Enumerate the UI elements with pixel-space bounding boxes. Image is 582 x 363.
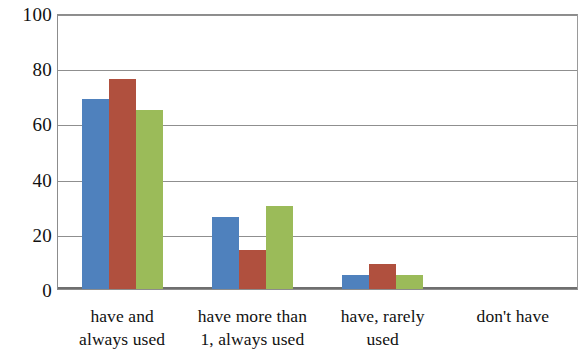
x-axis-label: don't have bbox=[448, 296, 578, 360]
x-axis-label-line: have, rarely bbox=[318, 305, 448, 328]
grouped-bar-chart: 020406080100 have andalways usedhave mor… bbox=[0, 0, 582, 363]
y-tick-label: 20 bbox=[0, 225, 52, 244]
y-tick-label: 0 bbox=[0, 281, 52, 300]
y-tick-label: 80 bbox=[0, 60, 52, 79]
bar-groups bbox=[58, 15, 577, 289]
x-axis-labels: have andalways usedhave more than1, alwa… bbox=[57, 296, 578, 360]
x-axis-label-line: don't have bbox=[448, 305, 578, 328]
x-axis-label: have more than1, always used bbox=[187, 296, 317, 360]
bar[interactable] bbox=[369, 264, 396, 289]
bar[interactable] bbox=[212, 217, 239, 289]
x-axis-label: have, rarelyused bbox=[318, 296, 448, 360]
x-axis-label-line: 1, always used bbox=[187, 328, 317, 351]
y-tick-label: 40 bbox=[0, 170, 52, 189]
bar[interactable] bbox=[82, 99, 109, 289]
x-axis-label: have andalways used bbox=[57, 296, 187, 360]
bar[interactable] bbox=[136, 110, 163, 289]
bar[interactable] bbox=[266, 206, 293, 289]
bar[interactable] bbox=[342, 275, 369, 289]
x-axis-label-line: always used bbox=[57, 328, 187, 351]
bar[interactable] bbox=[396, 275, 423, 289]
x-axis-label-line: have and bbox=[57, 305, 187, 328]
y-axis: 020406080100 bbox=[0, 0, 52, 363]
bar[interactable] bbox=[109, 79, 136, 289]
y-tick-label: 60 bbox=[0, 115, 52, 134]
bar[interactable] bbox=[239, 250, 266, 289]
x-axis-label-line: used bbox=[318, 328, 448, 351]
bar-group bbox=[447, 15, 577, 289]
bar-group bbox=[318, 15, 448, 289]
y-tick-label: 100 bbox=[0, 5, 52, 24]
x-axis-label-line: have more than bbox=[187, 305, 317, 328]
plot-area bbox=[57, 14, 578, 290]
bar-group bbox=[188, 15, 318, 289]
bar-group bbox=[58, 15, 188, 289]
